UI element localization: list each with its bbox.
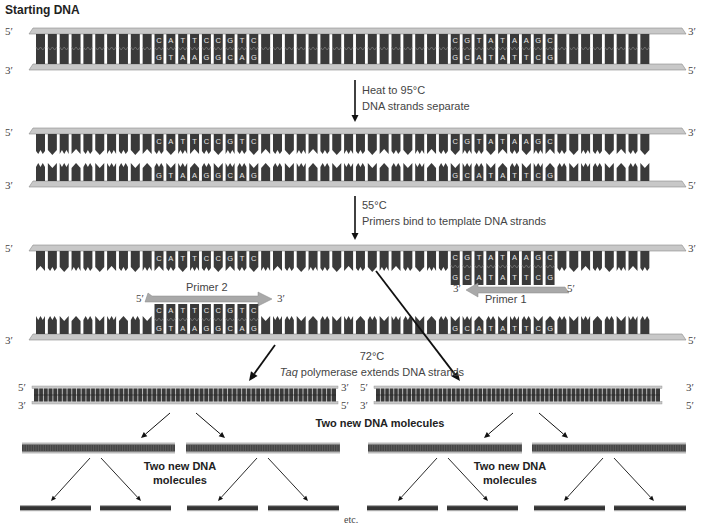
two-new-dna-right: Two new DNA molecules: [460, 459, 560, 487]
svg-text:A: A: [180, 171, 185, 180]
two-new-dna-line1: Two new DNA: [130, 459, 230, 473]
svg-text:G: G: [203, 53, 209, 62]
svg-text:C: C: [204, 254, 210, 263]
svg-text:G: G: [251, 53, 257, 62]
svg-text:G: G: [215, 171, 221, 180]
svg-text:C: C: [251, 36, 257, 45]
svg-text:A: A: [168, 137, 173, 146]
svg-text:G: G: [215, 53, 221, 62]
two-new-dna-line2: molecules: [460, 473, 560, 487]
svg-text:G: G: [547, 324, 553, 333]
svg-text:G: G: [547, 273, 553, 282]
svg-text:A: A: [488, 36, 493, 45]
svg-text:A: A: [476, 324, 481, 333]
svg-text:A: A: [476, 171, 481, 180]
svg-text:A: A: [500, 53, 505, 62]
svg-text:A: A: [168, 36, 173, 45]
label-3prime: 3′: [5, 334, 13, 346]
svg-text:A: A: [239, 171, 244, 180]
svg-text:G: G: [227, 306, 233, 315]
svg-text:T: T: [180, 36, 185, 45]
svg-text:T: T: [192, 137, 197, 146]
extend-temp: 72°C: [272, 348, 472, 364]
etc-label: etc.: [344, 514, 358, 525]
svg-text:T: T: [500, 36, 505, 45]
label-3prime: 3′: [5, 64, 13, 76]
svg-text:G: G: [547, 171, 553, 180]
svg-text:G: G: [452, 53, 458, 62]
svg-text:C: C: [453, 137, 459, 146]
primer2-3prime: 3′: [277, 292, 285, 304]
svg-text:T: T: [489, 273, 494, 282]
svg-text:A: A: [192, 324, 197, 333]
svg-text:C: C: [227, 324, 233, 333]
svg-text:C: C: [547, 253, 553, 262]
denature-desc: DNA strands separate: [362, 98, 470, 114]
svg-text:A: A: [500, 171, 505, 180]
svg-text:G: G: [464, 36, 470, 45]
svg-text:A: A: [476, 273, 481, 282]
svg-text:A: A: [524, 137, 529, 146]
anneal-temp: 55°C: [362, 197, 546, 213]
label-3prime: 3′: [688, 242, 696, 254]
two-new-dna-left: Two new DNA molecules: [130, 459, 230, 487]
svg-text:G: G: [535, 36, 541, 45]
svg-text:T: T: [489, 324, 494, 333]
svg-text:C: C: [216, 36, 222, 45]
svg-text:C: C: [547, 36, 553, 45]
svg-text:A: A: [168, 254, 173, 263]
label-3prime: 3′: [341, 381, 349, 393]
svg-text:A: A: [512, 137, 517, 146]
svg-text:C: C: [216, 137, 222, 146]
primer2-5prime: 5′: [136, 292, 144, 304]
svg-text:C: C: [464, 324, 470, 333]
label-5prime: 5′: [5, 25, 13, 37]
svg-text:T: T: [500, 253, 505, 262]
svg-text:C: C: [204, 306, 210, 315]
svg-text:T: T: [524, 171, 529, 180]
extend-desc: polymerase extends DNA strands: [298, 366, 464, 378]
svg-text:T: T: [524, 324, 529, 333]
svg-text:A: A: [476, 53, 481, 62]
svg-text:G: G: [452, 324, 458, 333]
svg-text:C: C: [535, 324, 541, 333]
svg-text:T: T: [512, 171, 517, 180]
svg-text:G: G: [203, 171, 209, 180]
denature-step-text: Heat to 95°C DNA strands separate: [362, 82, 470, 114]
svg-text:T: T: [180, 254, 185, 263]
svg-text:C: C: [156, 254, 162, 263]
svg-text:A: A: [239, 324, 244, 333]
label-3prime: 3′: [688, 126, 696, 138]
svg-text:A: A: [180, 53, 185, 62]
svg-text:T: T: [489, 53, 494, 62]
svg-text:T: T: [192, 254, 197, 263]
svg-text:C: C: [156, 36, 162, 45]
primer1-5prime: 5′: [567, 282, 575, 294]
svg-text:A: A: [524, 36, 529, 45]
taq-label: Taq: [280, 366, 298, 378]
svg-text:C: C: [204, 137, 210, 146]
svg-text:T: T: [240, 36, 245, 45]
svg-text:G: G: [156, 324, 162, 333]
label-5prime: 5′: [341, 399, 349, 411]
label-3prime: 3′: [360, 399, 368, 411]
denature-temp: Heat to 95°C: [362, 82, 470, 98]
svg-text:G: G: [251, 171, 257, 180]
svg-text:A: A: [239, 53, 244, 62]
label-3prime: 3′: [688, 25, 696, 37]
svg-text:T: T: [512, 324, 517, 333]
two-new-dna-line2: molecules: [130, 473, 230, 487]
svg-text:G: G: [227, 254, 233, 263]
svg-text:T: T: [192, 36, 197, 45]
svg-text:T: T: [500, 137, 505, 146]
svg-text:G: G: [227, 137, 233, 146]
svg-text:T: T: [524, 53, 529, 62]
label-5prime: 5′: [686, 399, 694, 411]
svg-text:T: T: [180, 137, 185, 146]
label-5prime: 5′: [360, 381, 368, 393]
svg-text:C: C: [464, 273, 470, 282]
svg-text:G: G: [227, 36, 233, 45]
svg-text:C: C: [535, 171, 541, 180]
label-3prime: 3′: [686, 381, 694, 393]
svg-text:A: A: [524, 253, 529, 262]
